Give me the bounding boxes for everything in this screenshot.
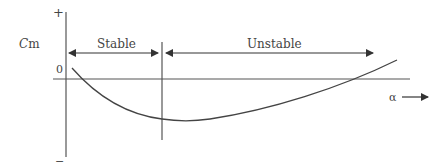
cm-axis-label: Cm bbox=[19, 37, 40, 51]
cm-label-italic: C bbox=[19, 37, 28, 51]
stable-label: Stable bbox=[97, 37, 136, 51]
zero-label: 0 bbox=[56, 63, 63, 76]
cm-curve bbox=[72, 60, 397, 121]
plus-sign-label: + bbox=[53, 5, 64, 20]
unstable-label: Unstable bbox=[247, 37, 302, 51]
alpha-axis-label: α bbox=[389, 91, 397, 104]
cm-label-subscript: m bbox=[28, 37, 40, 51]
minus-sign-label: − bbox=[55, 155, 64, 168]
cm-alpha-diagram: + − 0 Cm Stable Unstable α bbox=[0, 0, 447, 168]
